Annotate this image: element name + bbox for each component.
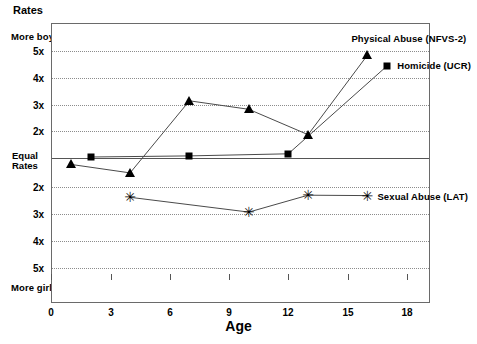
series-line-homicide (91, 66, 388, 157)
series-lines (0, 0, 477, 344)
series-label-sexual-abuse: Sexual Abuse (LAT) (377, 191, 467, 202)
series-label-homicide-text: Homicide (UCR) (397, 60, 471, 71)
series-label-physical-abuse: Physical Abuse (NFVS-2) (351, 33, 466, 44)
series-label-sexual-abuse-text: Sexual Abuse (LAT) (377, 191, 467, 202)
series-label-homicide: Homicide (UCR) (397, 60, 471, 71)
chart-figure: Rates More boys More girls Equal Rates 5… (0, 0, 477, 344)
series-line-sexual-abuse (130, 195, 367, 212)
series-label-physical-abuse-text: Physical Abuse (NFVS-2) (351, 33, 466, 44)
